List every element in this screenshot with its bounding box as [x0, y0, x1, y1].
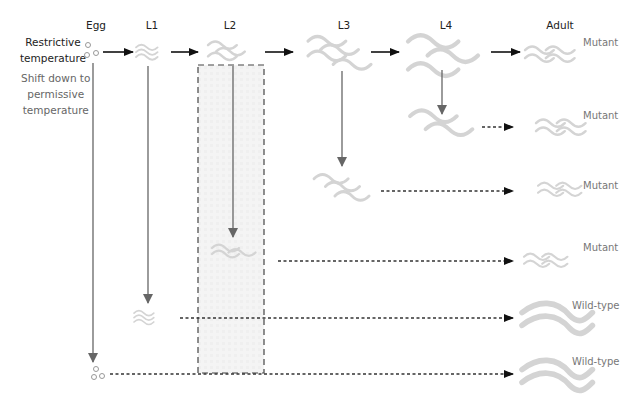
diagram-canvas [0, 0, 640, 409]
worm-icon-adult-wildtype-l1 [522, 303, 592, 333]
worm-icon-l1 [136, 45, 158, 60]
worm-icon-l4-shifted [410, 110, 472, 135]
worm-icon-l2 [208, 42, 245, 60]
worm-icon-l1-shifted [134, 311, 154, 325]
egg-icon-shifted [92, 367, 105, 380]
worm-icon-adult-wildtype-egg [522, 360, 592, 390]
worm-icon-adult-l3 [538, 183, 581, 196]
worm-icon-adult-l4 [536, 120, 586, 135]
egg-icon-top [85, 43, 99, 58]
worm-icon-l3 [308, 36, 371, 69]
worm-icon-l3-shifted [314, 175, 369, 201]
worm-icon-l4 [408, 35, 478, 76]
l2-sensitive-period-box [198, 65, 264, 373]
worm-icon-adult-l2 [524, 254, 567, 267]
worm-icon-adult-top [525, 47, 575, 62]
